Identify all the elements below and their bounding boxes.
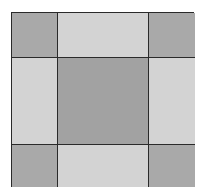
edge-square [12,58,58,145]
edge-square [149,58,195,145]
edge-square [58,145,149,187]
square-grid-diagram [11,12,194,187]
corner-square [149,145,195,187]
corner-square [12,145,58,187]
edge-square [58,13,149,58]
corner-square [12,13,58,58]
center-square [58,58,149,145]
corner-square [149,13,195,58]
